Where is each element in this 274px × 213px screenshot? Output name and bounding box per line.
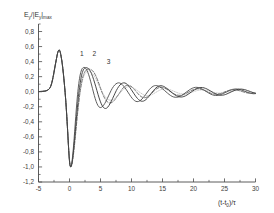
chart-figure: -5051015202530 0,80,60,40,20,0-0,2-0,4-0… — [0, 0, 274, 213]
y-tick-label: -0,6 — [23, 133, 34, 140]
x-tick-label: 0 — [68, 185, 72, 192]
y-tick-label: 0,2 — [25, 73, 34, 80]
curve-label-3: 3 — [107, 58, 111, 65]
curve-label-1: 1 — [80, 50, 84, 57]
x-tick-label: -5 — [36, 185, 42, 192]
y-tick-label: 0,6 — [25, 43, 34, 50]
x-tick-label: 20 — [190, 185, 198, 192]
y-tick-label: -1,2 — [23, 178, 34, 185]
x-tick-label: 5 — [99, 185, 103, 192]
curve-label-2: 2 — [92, 50, 96, 57]
y-tick-label: 0,0 — [25, 88, 34, 95]
x-tick-label: 25 — [221, 185, 229, 192]
y-tick-label: 0,8 — [25, 28, 34, 35]
line-chart: -5051015202530 0,80,60,40,20,0-0,2-0,4-0… — [0, 0, 274, 213]
x-tick-label: 30 — [252, 185, 260, 192]
y-tick-label: -0,8 — [23, 148, 34, 155]
x-tick-label: 10 — [128, 185, 136, 192]
x-tick-label: 15 — [159, 185, 167, 192]
y-tick-label: -1,0 — [23, 163, 34, 170]
y-tick-label: 0,4 — [25, 58, 34, 65]
y-tick-label: -0,2 — [23, 103, 34, 110]
y-tick-label: -0,4 — [23, 118, 34, 125]
